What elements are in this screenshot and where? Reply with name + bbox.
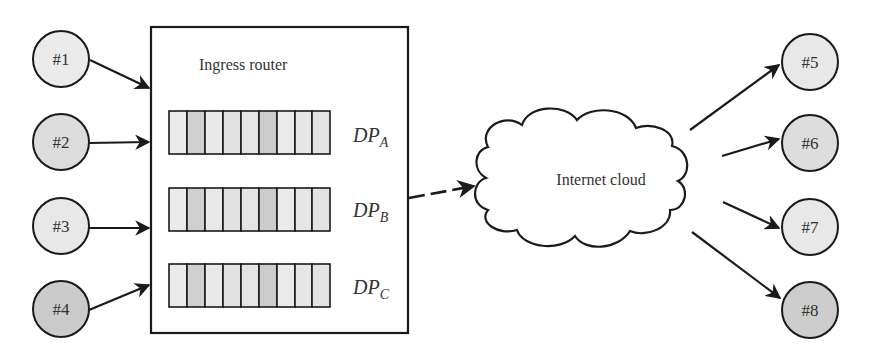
arrow-cloud-to-dest-6 <box>722 139 779 156</box>
dest-node-5-label: #5 <box>802 53 819 72</box>
dest-node-5: #5 <box>782 34 838 90</box>
internet-cloud: Internet cloud <box>475 109 687 247</box>
arrow-cloud-to-dest-5 <box>690 65 779 130</box>
source-node-3: #3 <box>33 198 89 254</box>
source-node-3-label: #3 <box>53 217 70 236</box>
dest-node-6-label: #6 <box>802 134 819 153</box>
source-node-1: #1 <box>33 31 89 87</box>
source-node-2-label: #2 <box>53 133 70 152</box>
source-node-4: #4 <box>33 281 89 337</box>
router-title: Ingress router <box>199 56 288 74</box>
dest-node-8: #8 <box>782 282 838 338</box>
dest-node-7: #7 <box>782 199 838 255</box>
arrow-router-to-cloud <box>409 186 474 198</box>
diagram-canvas: #1 #2 #3 #4 Ingress router DPA <box>0 0 869 362</box>
cloud-label: Internet cloud <box>556 171 645 188</box>
arrow-cloud-to-dest-7 <box>723 202 779 228</box>
dest-node-7-label: #7 <box>802 218 820 237</box>
source-node-2: #2 <box>33 114 89 170</box>
arrow-source-1-to-router <box>90 60 149 88</box>
arrow-source-2-to-router <box>89 142 149 143</box>
source-node-1-label: #1 <box>53 50 70 69</box>
arrow-cloud-to-dest-8 <box>692 232 780 298</box>
dest-node-8-label: #8 <box>802 301 819 320</box>
source-node-4-label: #4 <box>53 300 71 319</box>
dest-node-6: #6 <box>782 115 838 171</box>
arrow-source-4-to-router <box>89 285 149 310</box>
